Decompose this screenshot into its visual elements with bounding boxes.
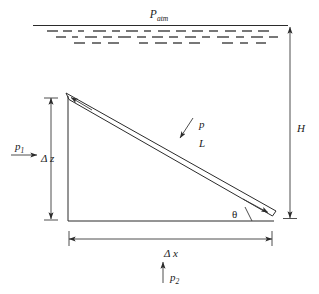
free-surface-group — [33, 26, 288, 44]
theta-label: θ — [232, 208, 237, 220]
delta-x-label: Δ x — [163, 247, 178, 259]
plate-length-label: L — [198, 137, 205, 149]
p-atm-label: Patm — [149, 8, 169, 23]
p2-subscript: 2 — [176, 277, 180, 286]
plate-pressure-label: p — [198, 118, 205, 130]
diagram-svg: Patm p1 p2 Δ z Δ x H p L θ — [0, 0, 319, 294]
p-atm-base: P — [149, 8, 157, 20]
plate-normal-pressure-arrow — [180, 118, 193, 138]
plate-pressure-arrow-group — [180, 118, 193, 138]
inclined-plate-group — [66, 93, 276, 216]
plate-lower-edge — [69, 100, 273, 217]
plate-upper-edge — [66, 93, 276, 211]
delta-x-dimension-group — [69, 231, 272, 246]
theta-angle-group — [245, 207, 252, 221]
depth-h-label: H — [296, 122, 306, 134]
control-volume-group — [68, 96, 274, 221]
figure-canvas: Patm p1 p2 Δ z Δ x H p L θ — [0, 0, 319, 294]
p1-subscript: 1 — [21, 146, 25, 155]
theta-angle-tick — [245, 207, 252, 221]
plate-direction-arrow-top — [71, 98, 92, 111]
p1-label: p1 — [14, 140, 24, 155]
delta-z-label: Δ z — [40, 152, 55, 164]
p-atm-subscript: atm — [157, 14, 169, 23]
p2-label: p2 — [169, 271, 180, 286]
depth-h-dimension-group — [283, 27, 297, 219]
plate-bottom-end-cap — [273, 211, 277, 216]
